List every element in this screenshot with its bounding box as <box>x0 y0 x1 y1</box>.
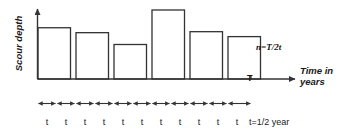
interval-tick-label: t <box>210 117 226 127</box>
interval-tick-label: t <box>96 117 112 127</box>
interval-tick-label: t <box>115 117 131 127</box>
total-time-label: T <box>247 73 253 83</box>
interval-tick-label: t <box>191 117 207 127</box>
interval-unit-label: t=1/2 year <box>249 117 289 127</box>
y-axis-label: Scour depth <box>13 13 24 75</box>
bar-3 <box>114 45 147 80</box>
interval-tick-label: t <box>77 117 93 127</box>
interval-tick-label: t <box>172 117 188 127</box>
interval-tick-label: t <box>153 117 169 127</box>
bar-1 <box>38 28 71 79</box>
interval-tick-label: t <box>58 117 74 127</box>
bar-2 <box>76 33 109 79</box>
bar-5 <box>190 32 223 79</box>
interval-tick-label: t <box>229 117 245 127</box>
bar-series <box>38 10 261 79</box>
x-axis-label: Time in years <box>300 65 346 87</box>
scour-depth-diagram: Scour depth Time in years n=T/2t T ttttt… <box>0 0 347 139</box>
interval-tick-label: t <box>39 117 55 127</box>
formula-annotation: n=T/2t <box>256 42 281 52</box>
bar-4 <box>152 10 185 79</box>
interval-tick-label: t <box>134 117 150 127</box>
interval-label-row: tttttttttttt=1/2 year <box>0 117 347 133</box>
